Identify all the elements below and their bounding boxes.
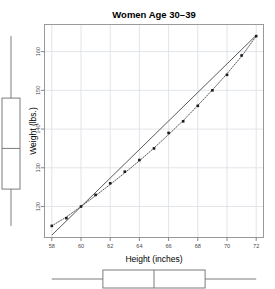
data-point (124, 170, 127, 173)
data-point (167, 132, 170, 135)
data-point (138, 159, 141, 162)
y-tick-label-130: 130 (36, 163, 42, 172)
y-tick-label-120: 120 (36, 202, 42, 211)
data-point (255, 35, 258, 38)
data-point (226, 74, 229, 77)
x-tick-label-66: 66 (165, 243, 171, 249)
x-tick-label-62: 62 (107, 243, 113, 249)
x-tick-label-72: 72 (253, 243, 259, 249)
data-point (240, 54, 243, 57)
y-tick-label-150: 150 (36, 86, 42, 95)
y-tick-label-160: 160 (36, 47, 42, 56)
chart-figure: Women Age 30–39 5860626466687072 1201301… (0, 0, 275, 289)
data-point (80, 205, 83, 208)
data-point (109, 182, 112, 185)
data-point (94, 194, 97, 197)
x-axis-label: Height (inches) (125, 254, 182, 264)
data-point (197, 105, 200, 108)
data-point (182, 120, 185, 123)
data-point (51, 225, 54, 228)
scatterplot-with-marginal-boxplots: Women Age 30–39 5860626466687072 1201301… (0, 0, 275, 289)
x-tick-label-58: 58 (49, 243, 55, 249)
x-tick-label-70: 70 (224, 243, 230, 249)
data-point (65, 217, 68, 220)
chart-title: Women Age 30–39 (112, 9, 195, 20)
y-axis-label: Weight (lbs.) (28, 107, 38, 155)
data-point (211, 89, 214, 92)
x-tick-label-60: 60 (78, 243, 84, 249)
x-tick-label-68: 68 (195, 243, 201, 249)
data-point (153, 147, 156, 150)
x-tick-label-64: 64 (136, 243, 142, 249)
